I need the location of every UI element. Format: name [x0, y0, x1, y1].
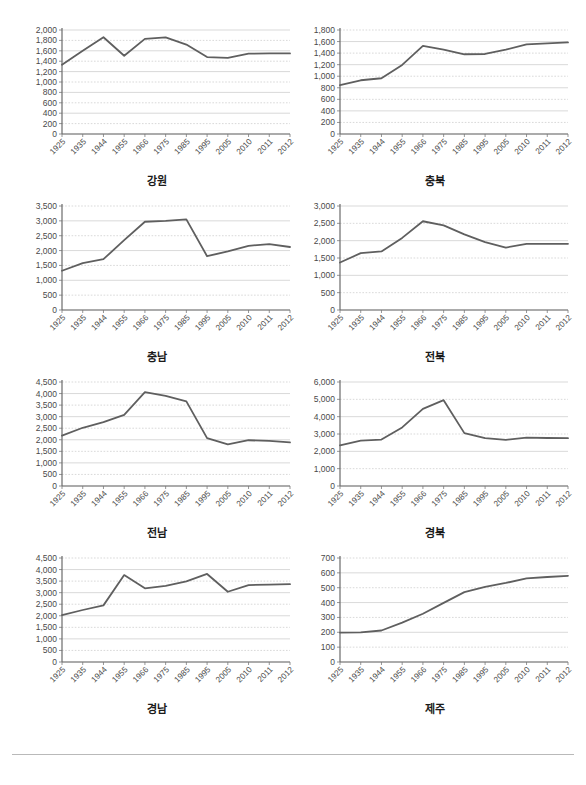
- x-axis-tick-label: 1944: [368, 489, 388, 509]
- chart-cell: 05001,0001,5002,0002,5003,0003,5004,0004…: [18, 550, 296, 726]
- x-axis-tick-label: 1985: [173, 313, 193, 333]
- x-axis-tick-label: 2012: [276, 489, 296, 509]
- y-axis-tick-label: 500: [43, 469, 57, 479]
- x-axis-tick-label: 1975: [152, 313, 172, 333]
- x-axis-tick-label: 2005: [492, 313, 512, 333]
- x-axis-tick-label: 1966: [131, 665, 151, 685]
- y-axis-tick-label: 1,200: [36, 67, 58, 77]
- x-axis-tick-label: 1955: [388, 137, 408, 157]
- y-axis-tick-label: 600: [321, 568, 335, 578]
- x-axis-tick-label: 1944: [90, 137, 110, 157]
- y-axis-tick-label: 1,000: [36, 77, 58, 87]
- x-axis-tick-label: 2011: [256, 489, 275, 508]
- x-axis-tick-label: 1955: [388, 489, 408, 509]
- x-axis-tick-label: 1955: [388, 313, 408, 333]
- y-axis-tick-label: 1,400: [36, 56, 58, 66]
- y-axis-tick-label: 200: [321, 627, 335, 637]
- y-axis-tick-label: 3,000: [314, 201, 336, 211]
- x-axis-tick-label: 1944: [90, 665, 110, 685]
- x-axis-tick-label: 1935: [69, 489, 89, 509]
- y-axis-tick-label: 500: [43, 290, 57, 300]
- x-axis-tick-label: 1935: [69, 313, 89, 333]
- x-axis-tick-label: 1925: [48, 489, 68, 509]
- y-axis-tick-label: 1,200: [314, 60, 336, 70]
- x-axis-tick-label: 1944: [368, 665, 388, 685]
- x-axis-tick-label: 2012: [276, 313, 296, 333]
- x-axis-tick-label: 2011: [256, 137, 275, 156]
- y-axis-tick-label: 600: [321, 94, 335, 104]
- x-axis-tick-label: 1975: [430, 489, 450, 509]
- x-axis-tick-label: 2012: [554, 665, 574, 685]
- x-axis-tick-label: 2012: [276, 665, 296, 685]
- y-axis-tick-label: 0: [52, 305, 57, 315]
- y-axis-tick-label: 1,500: [36, 446, 58, 456]
- data-series-line: [340, 576, 568, 633]
- y-axis-tick-label: 400: [43, 108, 57, 118]
- chart-title: 경북: [296, 524, 574, 540]
- x-axis-tick-label: 1975: [430, 313, 450, 333]
- charts-grid: 02004006008001,0001,2001,4001,6001,8002,…: [18, 22, 574, 726]
- x-axis-tick-label: 2010: [235, 489, 255, 509]
- y-axis-tick-label: 300: [321, 612, 335, 622]
- y-axis-tick-label: 1,500: [314, 253, 336, 263]
- data-series-line: [62, 574, 290, 615]
- y-axis-tick-label: 3,000: [36, 588, 58, 598]
- x-axis-tick-label: 2005: [214, 665, 234, 685]
- x-axis-tick-label: 1925: [48, 313, 68, 333]
- chart-cell: 0100200300400500600700192519351944195519…: [296, 550, 574, 726]
- y-axis-tick-label: 2,000: [314, 236, 336, 246]
- y-axis-tick-label: 200: [321, 117, 335, 127]
- y-axis-tick-label: 1,500: [36, 622, 58, 632]
- x-axis-tick-label: 2005: [214, 313, 234, 333]
- y-axis-tick-label: 3,000: [36, 412, 58, 422]
- x-axis-tick-label: 1966: [131, 313, 151, 333]
- x-axis-tick-label: 1966: [131, 137, 151, 157]
- x-axis-tick-label: 1985: [451, 489, 471, 509]
- x-axis-tick-label: 2011: [256, 313, 275, 332]
- y-axis-tick-label: 2,000: [36, 246, 58, 256]
- y-axis-tick-label: 5,000: [314, 394, 336, 404]
- x-axis-tick-label: 1975: [430, 665, 450, 685]
- x-axis-tick-label: 1955: [110, 137, 130, 157]
- x-axis-tick-label: 1935: [347, 137, 367, 157]
- x-axis-tick-label: 1925: [48, 665, 68, 685]
- y-axis-tick-label: 1,000: [314, 71, 336, 81]
- chart-title: 강원: [18, 172, 296, 188]
- x-axis-tick-label: 2010: [513, 665, 533, 685]
- chart-title: 전북: [296, 348, 574, 364]
- y-axis-tick-label: 0: [52, 657, 57, 667]
- y-axis-tick-label: 0: [330, 481, 335, 491]
- x-axis-tick-label: 1925: [326, 665, 346, 685]
- y-axis-tick-label: 4,500: [36, 377, 58, 387]
- y-axis-tick-label: 2,500: [36, 599, 58, 609]
- x-axis-tick-label: 2010: [513, 313, 533, 333]
- y-axis-tick-label: 2,500: [36, 423, 58, 433]
- x-axis-tick-label: 1985: [173, 665, 193, 685]
- x-axis-tick-label: 1966: [409, 665, 429, 685]
- x-axis-tick-label: 1985: [451, 137, 471, 157]
- y-axis-tick-label: 1,600: [314, 37, 336, 47]
- x-axis-tick-label: 2010: [235, 665, 255, 685]
- x-axis-tick-label: 1944: [368, 137, 388, 157]
- y-axis-tick-label: 500: [321, 288, 335, 298]
- chart-cell: 05001,0001,5002,0002,5003,00019251935194…: [296, 198, 574, 374]
- x-axis-tick-label: 1995: [193, 313, 213, 333]
- x-axis-tick-label: 1975: [152, 137, 172, 157]
- x-axis-tick-label: 2005: [492, 137, 512, 157]
- chart-cell: 02004006008001,0001,2001,4001,6001,80019…: [296, 22, 574, 198]
- chart-title: 충남: [18, 348, 296, 364]
- x-axis-tick-label: 1995: [471, 313, 491, 333]
- x-axis-tick-label: 1995: [471, 137, 491, 157]
- x-axis-tick-label: 2011: [534, 489, 553, 508]
- x-axis-tick-label: 1935: [347, 665, 367, 685]
- x-axis-tick-label: 2011: [256, 665, 275, 684]
- y-axis-tick-label: 1,000: [36, 458, 58, 468]
- x-axis-tick-label: 1925: [326, 489, 346, 509]
- y-axis-tick-label: 1,800: [36, 35, 58, 45]
- x-axis-tick-label: 2005: [214, 489, 234, 509]
- y-axis-tick-label: 1,600: [36, 46, 58, 56]
- x-axis-tick-label: 1925: [326, 137, 346, 157]
- x-axis-tick-label: 1995: [193, 665, 213, 685]
- x-axis-tick-label: 1935: [347, 313, 367, 333]
- y-axis-tick-label: 3,500: [36, 576, 58, 586]
